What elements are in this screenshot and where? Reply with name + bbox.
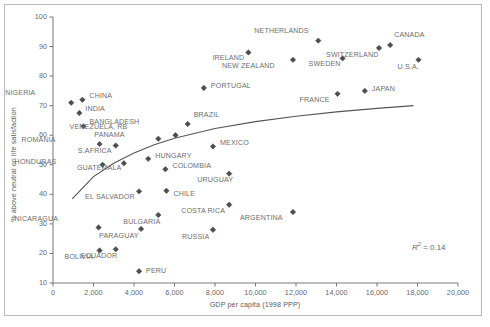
data-point-label: NIGERIA	[5, 89, 35, 97]
data-point-label: NICARAGUA	[15, 215, 59, 223]
data-point-label: S.AFRICA	[78, 147, 112, 155]
data-point-label: ARGENTINA	[240, 214, 283, 222]
data-point-label: PANAMA	[94, 131, 124, 139]
data-point-label: CANADA	[394, 31, 424, 39]
x-tick-label: 0	[33, 288, 73, 297]
data-point-marker[interactable]	[121, 161, 126, 166]
data-point-marker[interactable]	[156, 136, 161, 141]
data-point-marker[interactable]	[210, 227, 215, 232]
data-point-marker[interactable]	[416, 57, 421, 62]
y-tick-label: 10	[23, 278, 47, 287]
data-point-marker[interactable]	[290, 209, 295, 214]
x-tick-label: 16,000	[357, 288, 397, 297]
y-tick-label: 40	[23, 189, 47, 198]
data-point-label: EL SALVADOR	[85, 193, 135, 201]
data-point-marker[interactable]	[201, 85, 206, 90]
r-squared-annotation: R2 = 0.14	[412, 241, 446, 252]
data-point-marker[interactable]	[145, 156, 150, 161]
data-point-marker[interactable]	[164, 188, 169, 193]
data-point-marker[interactable]	[316, 38, 321, 43]
data-point-label: PARAGUAY	[99, 232, 139, 240]
data-point-marker[interactable]	[77, 110, 82, 115]
data-point-label: URUGUAY	[197, 176, 233, 184]
data-point-label: COSTA RICA	[181, 207, 225, 215]
data-point-label: RUSSIA	[182, 233, 209, 241]
x-tick-label: 18,000	[398, 288, 438, 297]
data-point-marker[interactable]	[226, 202, 231, 207]
x-tick-label: 4,000	[114, 288, 154, 297]
data-point-marker[interactable]	[113, 143, 118, 148]
data-point-marker[interactable]	[136, 268, 141, 273]
x-tick-label: 14,000	[317, 288, 357, 297]
data-point-label: FRANCE	[300, 96, 330, 104]
data-point-marker[interactable]	[80, 97, 85, 102]
data-point-marker[interactable]	[96, 225, 101, 230]
r-squared-value: 0.14	[430, 243, 446, 252]
data-point-marker[interactable]	[136, 189, 141, 194]
data-point-marker[interactable]	[290, 57, 295, 62]
data-point-marker[interactable]	[156, 212, 161, 217]
x-tick-label: 20,000	[438, 288, 478, 297]
data-point-label: PERU	[146, 267, 166, 275]
data-point-label: BRAZIL	[194, 111, 220, 119]
data-point-label: U.S.A.	[398, 63, 419, 71]
data-point-marker[interactable]	[387, 42, 392, 47]
x-tick-label: 6,000	[155, 288, 195, 297]
data-point-label: COLOMBIA	[172, 162, 211, 170]
x-axis-title: GDP per capita (1998 PPP)	[180, 300, 330, 309]
y-tick-label: 70	[23, 101, 47, 110]
data-point-marker[interactable]	[163, 167, 168, 172]
data-point-label: NEW ZEALAND	[222, 62, 275, 70]
data-point-label: MEXICO	[220, 139, 249, 147]
x-tick-label: 8,000	[195, 288, 235, 297]
data-point-marker[interactable]	[246, 50, 251, 55]
data-point-marker[interactable]	[138, 226, 143, 231]
y-tick-label: 20	[23, 248, 47, 257]
y-tick-label: 80	[23, 71, 47, 80]
data-point-marker[interactable]	[362, 88, 367, 93]
data-point-label: SWEDEN	[309, 60, 341, 68]
data-point-marker[interactable]	[113, 247, 118, 252]
data-point-marker[interactable]	[335, 91, 340, 96]
data-point-marker[interactable]	[185, 121, 190, 126]
chart-screenshot: % above neutral on life satisfaction GDP…	[0, 0, 490, 327]
data-point-label: NETHERLANDS	[254, 27, 308, 35]
data-point-label: CHILE	[173, 190, 195, 198]
data-point-marker[interactable]	[210, 144, 215, 149]
data-point-marker[interactable]	[69, 100, 74, 105]
data-point-label: ECUADOR	[81, 252, 118, 260]
data-point-label: ROMANIA	[22, 136, 56, 144]
data-point-label: HUNGARY	[155, 152, 191, 160]
y-tick-label: 90	[23, 42, 47, 51]
x-tick-label: 12,000	[276, 288, 316, 297]
data-point-label: SWITZERLAND	[326, 51, 379, 59]
data-point-label: INDIA	[85, 105, 105, 113]
data-point-label: VENEZUELA, RB	[70, 123, 128, 131]
data-point-marker[interactable]	[376, 45, 381, 50]
data-point-label: JAPAN	[372, 85, 395, 93]
data-point-label: HONDURAS	[15, 158, 57, 166]
x-tick-label: 2,000	[74, 288, 114, 297]
data-point-label: CHINA	[89, 92, 112, 100]
scatter-plot-canvas	[0, 0, 490, 327]
x-tick-label: 10,000	[236, 288, 276, 297]
y-tick-label: 100	[23, 12, 47, 21]
data-point-label: GUATEMALA	[77, 164, 122, 172]
data-point-label: BULGARIA	[123, 218, 160, 226]
data-point-label: PORTUGAL	[211, 82, 251, 90]
